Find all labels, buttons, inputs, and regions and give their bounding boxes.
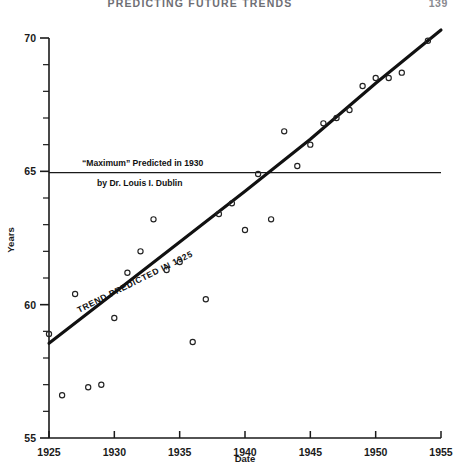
- x-tick-label: 1925: [37, 446, 61, 458]
- y-tick-label: 70: [24, 32, 36, 44]
- y-axis-ticks: [40, 38, 49, 438]
- data-point: [360, 83, 365, 88]
- data-point: [138, 249, 143, 254]
- y-tick-label: 55: [24, 432, 36, 444]
- data-point: [73, 291, 78, 296]
- y-tick-label: 65: [24, 165, 36, 177]
- data-point: [321, 121, 326, 126]
- data-point: [125, 270, 130, 275]
- data-point: [203, 297, 208, 302]
- x-axis-title: Date: [235, 453, 256, 464]
- x-axis-ticks: [49, 431, 441, 438]
- data-point: [399, 70, 404, 75]
- x-tick-label: 1955: [429, 446, 453, 458]
- data-point: [282, 129, 287, 134]
- data-point-markers: [46, 38, 430, 398]
- annotation-maximum-line1: “Maximum” Predicted in 1930: [82, 158, 204, 168]
- y-axis-title: Years: [5, 227, 16, 252]
- y-tick-label: 60: [24, 299, 36, 311]
- x-tick-label: 1950: [364, 446, 388, 458]
- data-point: [151, 217, 156, 222]
- data-point: [386, 75, 391, 80]
- data-point: [242, 227, 247, 232]
- chart-svg: 55606570 1925193019351940194519501955 “M…: [0, 0, 456, 466]
- y-axis-tick-labels: 55606570: [24, 32, 36, 444]
- data-point: [99, 382, 104, 387]
- annotation-trend-label: TREND PREDICTED IN 1925: [75, 249, 194, 315]
- data-point: [295, 163, 300, 168]
- data-point: [373, 75, 378, 80]
- figure-predicting-future-trends: PREDICTING FUTURE TRENDS 139 55606570 19…: [0, 0, 456, 466]
- data-point: [269, 217, 274, 222]
- x-tick-label: 1945: [299, 446, 323, 458]
- x-tick-label: 1935: [168, 446, 192, 458]
- x-tick-label: 1930: [103, 446, 127, 458]
- annotation-maximum-line2: by Dr. Louis I. Dublin: [97, 178, 182, 188]
- data-point: [308, 142, 313, 147]
- data-point: [60, 393, 65, 398]
- data-point: [86, 385, 91, 390]
- data-point: [347, 107, 352, 112]
- data-point: [112, 315, 117, 320]
- data-point: [190, 339, 195, 344]
